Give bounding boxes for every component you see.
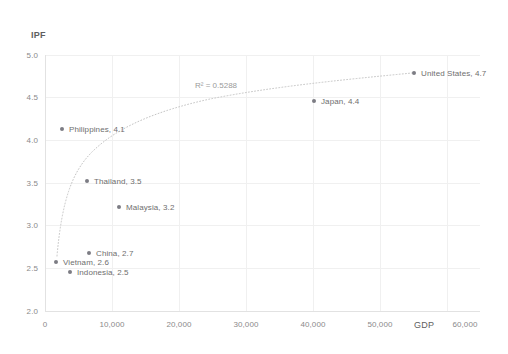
- data-point-label: Philippines, 4.1: [69, 125, 125, 134]
- x-tick-label: 20,000: [154, 320, 204, 329]
- data-point-malaysia[interactable]: [117, 205, 121, 209]
- x-axis-title: GDP: [414, 320, 434, 330]
- data-point-label: China, 2.7: [96, 249, 133, 258]
- y-tick-label: 2.5: [8, 264, 38, 273]
- data-point-label: Japan, 4.4: [321, 97, 359, 106]
- gridline-horizontal: [45, 55, 480, 56]
- data-point-thailand[interactable]: [85, 179, 89, 183]
- data-point-label: Malaysia, 3.2: [126, 203, 174, 212]
- gridline-horizontal: [45, 97, 480, 98]
- gridline-horizontal: [45, 140, 480, 141]
- y-tick-label: 4.5: [8, 93, 38, 102]
- x-tick-label: 60,000: [440, 320, 490, 329]
- y-tick-label: 2.0: [8, 307, 38, 316]
- x-tick-label: 50,000: [355, 320, 405, 329]
- x-tick-label: 30,000: [221, 320, 271, 329]
- scatter-chart: IPF GDP 5.0 4.5 4.0 3.5 3.0 2.5 2.0 0 10…: [0, 0, 508, 354]
- data-point-china[interactable]: [87, 251, 91, 255]
- data-point-label: Thailand, 3.5: [94, 177, 142, 186]
- x-axis-line: [45, 311, 480, 312]
- y-tick-label: 5.0: [8, 51, 38, 60]
- data-point-united-states[interactable]: [412, 71, 416, 75]
- y-tick-label: 3.5: [8, 179, 38, 188]
- y-axis-title: IPF: [31, 30, 46, 40]
- x-tick-label: 0: [20, 320, 70, 329]
- y-tick-label: 3.0: [8, 221, 38, 230]
- data-point-label: United States, 4.7: [421, 69, 486, 78]
- gridline-horizontal: [45, 225, 480, 226]
- x-tick-label: 40,000: [288, 320, 338, 329]
- y-tick-label: 4.0: [8, 136, 38, 145]
- data-point-vietnam[interactable]: [54, 260, 58, 264]
- data-point-label: Vietnam, 2.6: [63, 258, 109, 267]
- y-axis-line: [45, 55, 46, 311]
- data-point-philippines[interactable]: [60, 127, 64, 131]
- x-tick-label: 10,000: [87, 320, 137, 329]
- r-squared-annotation: R² = 0.5288: [195, 81, 237, 90]
- data-point-japan[interactable]: [312, 99, 316, 103]
- data-point-label: Indonesia, 2.5: [77, 268, 129, 277]
- data-point-indonesia[interactable]: [68, 270, 72, 274]
